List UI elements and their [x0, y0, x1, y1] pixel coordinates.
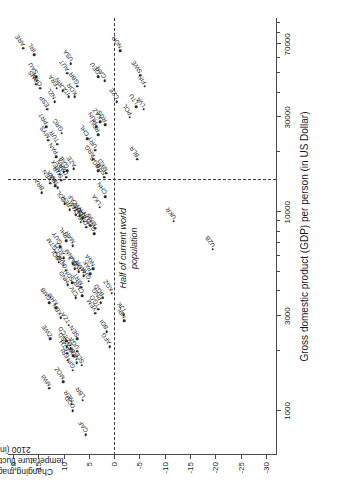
data-point: [68, 208, 71, 211]
data-point: [46, 108, 49, 111]
point-label: LBR: [73, 386, 86, 400]
data-point: [54, 184, 57, 187]
y-tick-label: 5: [84, 462, 93, 466]
data-point: [71, 410, 74, 413]
x-tick-minor: [277, 220, 280, 221]
data-point: [66, 169, 69, 172]
zero-reference-line: [114, 18, 115, 455]
data-point: [97, 169, 100, 172]
x-tick-minor: [277, 57, 280, 58]
y-tick-label: 0: [110, 462, 119, 466]
data-point: [69, 62, 72, 65]
data-point: [54, 251, 57, 254]
data-point: [173, 220, 176, 223]
data-point: [82, 216, 85, 219]
point-label: LKA: [90, 193, 102, 207]
data-point: [103, 176, 106, 179]
data-point: [22, 47, 25, 50]
data-point: [94, 149, 97, 152]
data-point: [211, 248, 214, 251]
y-tick: [114, 455, 115, 459]
data-point: [99, 302, 102, 305]
data-point: [56, 143, 59, 146]
data-point: [76, 85, 79, 88]
data-point: [49, 182, 52, 185]
x-tick-minor: [277, 22, 280, 23]
data-point: [72, 354, 75, 357]
data-point: [94, 312, 97, 315]
data-point: [81, 364, 84, 367]
y-tick-label: -5: [135, 462, 144, 469]
data-point: [65, 346, 68, 349]
data-point: [60, 132, 63, 135]
data-point: [82, 399, 85, 402]
y-tick-label: -10: [160, 462, 169, 474]
x-tick-minor: [277, 72, 280, 73]
point-label: NOR: [110, 35, 124, 50]
x-axis-line: [276, 18, 277, 455]
data-point: [75, 361, 78, 364]
x-tick-minor: [277, 255, 280, 256]
data-point: [89, 224, 92, 227]
point-label: AFG: [100, 332, 113, 346]
y-tick: [241, 455, 242, 459]
x-tick: [277, 116, 281, 117]
data-point: [74, 214, 77, 217]
x-tick-minor: [277, 92, 280, 93]
data-point: [136, 158, 139, 161]
x-tick: [277, 410, 281, 411]
data-point: [65, 239, 68, 242]
data-point: [135, 105, 138, 108]
data-point: [64, 269, 67, 272]
x-tick: [277, 43, 281, 44]
y-tick: [190, 455, 191, 459]
data-point: [83, 220, 86, 223]
data-point: [88, 280, 91, 283]
data-point: [35, 76, 38, 79]
x-tick-minor: [277, 350, 280, 351]
x-tick-label: 10000: [283, 201, 292, 223]
data-point: [123, 319, 126, 322]
point-label: POL: [120, 103, 133, 117]
y-tick-label: -25: [236, 462, 245, 474]
data-point: [129, 116, 132, 119]
data-point: [115, 100, 118, 103]
data-point: [65, 176, 68, 179]
point-label: UKR: [164, 206, 177, 221]
data-point: [98, 206, 101, 209]
data-point: [81, 294, 84, 297]
point-label: BLR: [127, 145, 140, 159]
data-point: [60, 179, 63, 182]
point-label: BRA: [32, 178, 45, 192]
x-tick-minor: [277, 32, 280, 33]
data-point: [85, 226, 88, 229]
data-point: [39, 87, 42, 90]
data-point: [97, 308, 100, 311]
point-label: IRL: [26, 42, 37, 54]
point-label: UZB: [203, 235, 216, 249]
data-point: [85, 433, 88, 436]
data-point: [41, 192, 44, 195]
point-label: CZE: [107, 87, 120, 101]
data-point: [86, 137, 89, 140]
point-label: ZWE: [40, 323, 54, 338]
data-point: [95, 125, 98, 128]
point-label: FIN: [136, 74, 147, 86]
x-tick-label: 1000: [283, 402, 292, 420]
data-point: [49, 338, 52, 341]
point-label: BDI: [98, 319, 110, 331]
data-point: [92, 158, 95, 161]
x-tick-minor: [277, 271, 280, 272]
data-point: [66, 72, 69, 75]
data-point: [89, 273, 92, 276]
point-label: MOZ: [53, 366, 67, 381]
data-point: [35, 83, 38, 86]
half-population-annotation: Half of current world population: [118, 188, 140, 308]
data-point: [122, 313, 125, 316]
data-point: [70, 403, 73, 406]
data-point: [139, 74, 142, 77]
data-point: [53, 100, 56, 103]
x-tick-minor: [277, 242, 280, 243]
point-label: ARE: [13, 33, 26, 47]
data-point: [56, 186, 59, 189]
